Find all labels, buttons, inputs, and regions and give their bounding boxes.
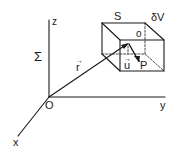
unit-vector-label: → u [124, 60, 130, 71]
position-vector-label: → r [76, 62, 80, 73]
volume-label: δV [151, 12, 164, 23]
diagram-canvas: z Σ S δV o P O y x → r → u [0, 0, 177, 154]
vector-arrow-icon: → [124, 55, 131, 62]
point-p-label: P [140, 60, 147, 71]
y-axis-label: y [160, 100, 166, 111]
diagram-drawing [0, 0, 177, 154]
center-label: o [136, 29, 142, 39]
frame-label: Σ [34, 50, 42, 63]
position-vector-r [49, 44, 127, 97]
x-axis-label: x [13, 137, 19, 148]
volume-box-hidden-edges [102, 23, 164, 71]
surface-label: S [114, 11, 121, 22]
z-axis-label: z [52, 17, 57, 27]
vector-arrow-icon: → [76, 57, 83, 64]
origin-label: O [45, 100, 54, 111]
volume-box [102, 23, 164, 71]
